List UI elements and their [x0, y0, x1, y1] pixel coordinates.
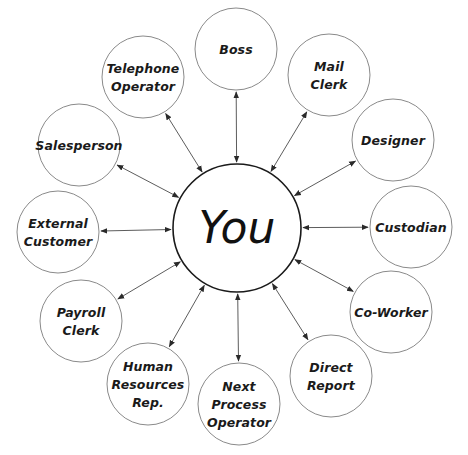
bidirectional-arrow-next-process-operator — [238, 294, 239, 361]
node-label: Human — [123, 359, 173, 374]
node-next-process-operator: NextProcessOperator — [198, 363, 280, 445]
node-payroll-clerk: PayrollClerk — [40, 280, 122, 362]
node-label: Operator — [111, 79, 176, 94]
relationship-diagram: BossMailClerkDesignerCustodianCo-WorkerD… — [0, 0, 468, 455]
bidirectional-arrow-payroll-clerk — [118, 262, 180, 299]
node-label: Designer — [361, 133, 426, 148]
bidirectional-arrow-designer — [295, 161, 356, 196]
node-label: Operator — [207, 415, 272, 430]
node-label: Resources — [112, 377, 185, 392]
bidirectional-arrow-mail-clerk — [271, 112, 307, 171]
node-label: Telephone — [107, 61, 180, 76]
node-label: Clerk — [311, 77, 349, 92]
node-label: Next — [222, 379, 256, 394]
node-circle — [288, 34, 370, 116]
node-telephone-operator: TelephoneOperator — [102, 36, 184, 118]
center-node: You — [173, 164, 301, 292]
node-label: Payroll — [57, 305, 106, 320]
bidirectional-arrow-telephone-operator — [166, 114, 202, 173]
bidirectional-arrow-co-worker — [295, 260, 353, 292]
node-label: Customer — [24, 234, 93, 249]
bidirectional-arrow-salesperson — [117, 165, 179, 197]
node-mail-clerk: MailClerk — [288, 34, 370, 116]
node-direct-report: DirectReport — [290, 335, 372, 417]
node-salesperson: Salesperson — [35, 104, 122, 186]
center-label: You — [199, 202, 276, 253]
node-label: Boss — [219, 42, 252, 57]
node-label: Mail — [314, 59, 344, 74]
bidirectional-arrow-human-resources-rep — [169, 285, 204, 346]
node-circle — [102, 36, 184, 118]
node-label: Direct — [309, 360, 353, 375]
node-human-resources-rep: HumanResourcesRep. — [107, 343, 189, 425]
node-label: Co-Worker — [354, 305, 428, 320]
bidirectional-arrow-direct-report — [272, 284, 308, 340]
node-circle — [17, 191, 99, 273]
node-label: Clerk — [63, 323, 101, 338]
node-circle — [40, 280, 122, 362]
node-circle — [290, 335, 372, 417]
node-external-customer: ExternalCustomer — [17, 191, 99, 273]
node-label: External — [28, 216, 88, 231]
node-label: Process — [212, 397, 267, 412]
node-co-worker: Co-Worker — [350, 271, 432, 353]
bidirectional-arrow-external-customer — [101, 230, 171, 232]
node-designer: Designer — [352, 99, 434, 181]
node-label: Report — [307, 378, 356, 393]
node-boss: Boss — [195, 8, 277, 90]
node-custodian: Custodian — [370, 186, 452, 268]
node-label: Rep. — [132, 395, 164, 410]
node-label: Custodian — [375, 220, 447, 235]
node-label: Salesperson — [35, 138, 122, 153]
